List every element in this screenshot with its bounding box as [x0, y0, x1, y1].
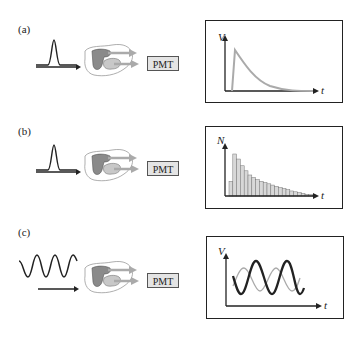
- panel-b: (b) PMT N t: [0, 110, 360, 220]
- histogram-bar: [248, 175, 252, 196]
- histogram-bar: [275, 186, 279, 196]
- panel-c: (c) PMT V t: [0, 220, 360, 338]
- modulated-excitation-icon: [18, 253, 83, 295]
- fluorescent-sample-icon: [82, 260, 142, 296]
- histogram-bar: [233, 154, 237, 196]
- output-plot-histogram: N t: [205, 126, 343, 209]
- histogram-bar: [240, 166, 244, 196]
- fluorescent-sample-icon: [82, 148, 142, 184]
- excitation-pulse-icon: [36, 143, 81, 173]
- y-axis-label: N: [217, 134, 224, 146]
- panel-a: (a) PMT V t: [0, 0, 360, 110]
- histogram-bar: [286, 190, 290, 196]
- histogram-bar: [271, 185, 275, 196]
- x-axis-label: t: [321, 84, 324, 96]
- histogram-bar: [252, 178, 256, 196]
- excitation-pulse-icon: [36, 38, 81, 68]
- pmt-detector: PMT: [147, 56, 179, 71]
- histogram-bar: [263, 183, 267, 196]
- histogram-bar: [229, 181, 233, 196]
- pmt-detector: PMT: [147, 273, 179, 288]
- histogram-bar: [259, 181, 263, 196]
- histogram-bar: [278, 188, 282, 196]
- output-plot-sinusoid: V t: [206, 236, 344, 319]
- fluorescent-sample-icon: [82, 43, 142, 79]
- panel-label-b: (b): [18, 125, 31, 137]
- histogram-bar: [237, 159, 241, 196]
- x-axis-label: t: [324, 299, 327, 311]
- output-plot-decay: V t: [205, 20, 343, 103]
- y-axis-label: V: [218, 245, 225, 257]
- x-axis-label: t: [321, 189, 324, 201]
- histogram-bar: [244, 171, 248, 196]
- histogram-bar: [290, 191, 294, 196]
- histogram-bar: [267, 184, 271, 196]
- panel-label-a: (a): [18, 23, 30, 35]
- y-axis-label: V: [218, 31, 225, 43]
- pmt-detector: PMT: [147, 161, 179, 176]
- panel-label-c: (c): [18, 226, 30, 238]
- histogram-bar: [282, 188, 286, 196]
- histogram-bar: [256, 180, 260, 196]
